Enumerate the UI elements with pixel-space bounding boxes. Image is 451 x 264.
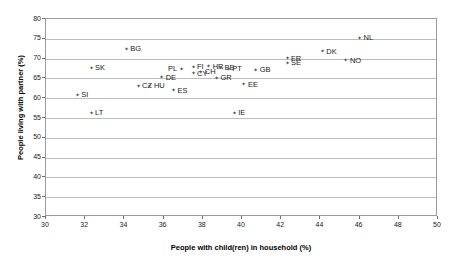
y-tick-mark-75	[42, 38, 45, 39]
point-label-pl: PL	[168, 64, 177, 73]
x-tick-mark-36	[163, 216, 164, 219]
y-tick-label-75: 75	[19, 34, 41, 41]
point-marker-icon	[75, 93, 80, 98]
y-tick-mark-80	[42, 18, 45, 19]
x-tick-mark-38	[202, 216, 203, 219]
scatter-chart: SISKLTBGCZHUDEESPLFICYCHHRGRBEPTIEEEGBFR…	[0, 0, 451, 264]
point-label-ie: IE	[238, 108, 245, 117]
gridline-y-35	[46, 197, 436, 198]
point-marker-icon	[89, 66, 94, 71]
gridline-y-50	[46, 138, 436, 139]
point-label-si: SI	[81, 90, 88, 99]
gridline-y-60	[46, 98, 436, 99]
y-tick-label-50: 50	[19, 133, 41, 140]
x-tick-label-38: 38	[190, 221, 214, 228]
point-marker-icon	[357, 36, 362, 41]
y-tick-label-70: 70	[19, 54, 41, 61]
y-tick-mark-45	[42, 157, 45, 158]
y-tick-mark-55	[42, 117, 45, 118]
gridline-y-45	[46, 158, 436, 159]
x-axis-title: People with child(ren) in household (%)	[45, 243, 437, 252]
point-label-sk: SK	[95, 63, 105, 72]
y-tick-label-45: 45	[19, 153, 41, 160]
point-label-es: ES	[177, 86, 187, 95]
point-marker-icon	[241, 82, 246, 87]
x-tick-mark-30	[45, 216, 46, 219]
point-marker-icon	[191, 71, 196, 76]
x-tick-label-50: 50	[425, 221, 449, 228]
point-label-no: NO	[350, 56, 361, 65]
point-marker-icon	[159, 75, 164, 80]
y-tick-label-30: 30	[19, 213, 41, 220]
plot-area: SISKLTBGCZHUDEESPLFICYCHHRGRBEPTIEEEGBFR…	[45, 18, 437, 216]
point-marker-icon	[136, 84, 141, 89]
point-marker-icon	[147, 84, 152, 89]
x-tick-mark-40	[241, 216, 242, 219]
point-marker-icon	[232, 111, 237, 116]
x-tick-mark-48	[398, 216, 399, 219]
point-label-ee: EE	[248, 80, 258, 89]
x-tick-mark-44	[319, 216, 320, 219]
x-tick-mark-34	[123, 216, 124, 219]
x-tick-mark-32	[84, 216, 85, 219]
point-marker-icon	[320, 49, 325, 54]
x-tick-label-30: 30	[33, 221, 57, 228]
gridline-y-75	[46, 39, 436, 40]
gridline-y-55	[46, 118, 436, 119]
x-tick-label-34: 34	[111, 221, 135, 228]
point-marker-icon	[198, 70, 203, 75]
x-tick-mark-42	[280, 216, 281, 219]
point-marker-icon	[179, 67, 184, 72]
point-label-gr: GR	[221, 73, 232, 82]
y-tick-label-80: 80	[19, 15, 41, 22]
point-marker-icon	[206, 64, 211, 69]
point-marker-icon	[343, 58, 348, 63]
gridline-y-65	[46, 78, 436, 79]
gridline-y-40	[46, 177, 436, 178]
y-tick-label-40: 40	[19, 173, 41, 180]
point-label-hu: HU	[154, 81, 165, 90]
x-tick-mark-46	[359, 216, 360, 219]
y-tick-label-35: 35	[19, 193, 41, 200]
point-label-de: DE	[166, 73, 176, 82]
y-tick-label-55: 55	[19, 114, 41, 121]
y-tick-mark-65	[42, 77, 45, 78]
x-tick-mark-50	[437, 216, 438, 219]
x-tick-label-40: 40	[229, 221, 253, 228]
x-tick-label-36: 36	[151, 221, 175, 228]
point-marker-icon	[226, 67, 231, 72]
point-label-dk: DK	[326, 47, 336, 56]
y-axis-title: People living with partner (%)	[16, 28, 25, 188]
y-tick-label-65: 65	[19, 74, 41, 81]
x-tick-label-46: 46	[347, 221, 371, 228]
point-label-nl: NL	[364, 33, 374, 42]
point-marker-icon	[89, 111, 94, 116]
x-tick-label-48: 48	[386, 221, 410, 228]
y-tick-mark-50	[42, 137, 45, 138]
point-marker-icon	[124, 47, 129, 52]
point-label-se: SE	[291, 58, 301, 67]
y-tick-mark-35	[42, 196, 45, 197]
point-marker-icon	[214, 76, 219, 81]
x-tick-label-32: 32	[72, 221, 96, 228]
point-label-bg: BG	[130, 44, 141, 53]
point-marker-icon	[218, 66, 223, 71]
point-label-gb: GB	[260, 65, 271, 74]
gridline-y-70	[46, 59, 436, 60]
x-tick-label-44: 44	[307, 221, 331, 228]
y-tick-mark-40	[42, 176, 45, 177]
point-marker-icon	[253, 68, 258, 73]
point-marker-icon	[191, 65, 196, 70]
point-label-lt: LT	[95, 108, 103, 117]
x-tick-label-42: 42	[268, 221, 292, 228]
y-tick-label-60: 60	[19, 94, 41, 101]
y-tick-mark-60	[42, 97, 45, 98]
y-tick-mark-70	[42, 58, 45, 59]
point-marker-icon	[285, 61, 290, 66]
point-label-pt: PT	[232, 64, 242, 73]
point-marker-icon	[171, 88, 176, 93]
